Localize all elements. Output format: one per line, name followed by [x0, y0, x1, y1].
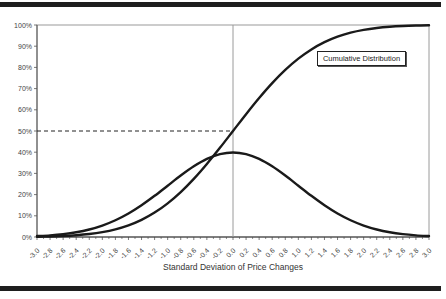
- y-tick-label: 70%: [18, 85, 32, 92]
- annotations: [37, 25, 233, 237]
- x-tick-label: 0.4: [251, 247, 263, 259]
- x-tick-label: -0.2: [210, 247, 224, 261]
- x-tick-label: 1.6: [329, 247, 341, 259]
- x-tick-label: 1.2: [303, 247, 315, 259]
- y-tick-label: 40%: [18, 149, 32, 156]
- x-tick-label: 0.6: [264, 247, 276, 259]
- bottom-rule: [0, 286, 441, 291]
- x-tick-label: -1.0: [158, 247, 172, 261]
- y-tick-label: 90%: [18, 43, 32, 50]
- x-tick-label: -1.2: [145, 247, 159, 261]
- x-tick-label: 0.2: [238, 247, 250, 259]
- x-tick-label: 2.6: [395, 247, 407, 259]
- x-tick-label: 0.8: [277, 247, 289, 259]
- y-tick-label: 50%: [18, 128, 32, 135]
- x-tick-label: 2.8: [408, 247, 420, 259]
- x-tick-label: -1.6: [119, 247, 133, 261]
- x-tick-label: -0.4: [197, 247, 211, 261]
- x-tick-label: 2.0: [356, 247, 368, 259]
- y-tick-label: 100%: [14, 22, 32, 29]
- x-tick-label: -2.0: [93, 247, 107, 261]
- y-tick-label: 30%: [18, 170, 32, 177]
- x-tick-label: -0.6: [184, 247, 198, 261]
- y-tick-label: 60%: [18, 106, 32, 113]
- normal-distribution-chart: 0%10%20%30%40%50%60%70%80%90%100% -3.0-2…: [0, 0, 446, 299]
- x-tick-label: 2.4: [382, 247, 394, 259]
- x-tick-label: -3.0: [27, 247, 41, 261]
- x-tick-label: 1.8: [342, 247, 354, 259]
- x-axis: -3.0-2.8-2.6-2.4-2.2-2.0-1.8-1.6-1.4-1.2…: [27, 237, 433, 260]
- x-tick-label: -2.8: [40, 247, 54, 261]
- x-tick-label: 1.4: [316, 247, 328, 259]
- y-tick-label: 10%: [18, 212, 32, 219]
- x-tick-label: -0.8: [171, 247, 185, 261]
- x-tick-label: 3.0: [421, 247, 433, 259]
- y-tick-label: 80%: [18, 64, 32, 71]
- x-tick-label: -1.8: [106, 247, 120, 261]
- y-axis: 0%10%20%30%40%50%60%70%80%90%100%: [14, 22, 37, 241]
- x-tick-label: -1.4: [132, 247, 146, 261]
- y-tick-label: 20%: [18, 191, 32, 198]
- y-tick-label: 0%: [22, 234, 32, 241]
- x-tick-label: 1.0: [290, 247, 302, 259]
- x-tick-label: 0.0: [225, 247, 237, 259]
- x-tick-label: -2.4: [66, 247, 80, 261]
- x-tick-label: 2.2: [369, 247, 381, 259]
- legend-cumulative-distribution: Cumulative Distribution: [317, 51, 406, 66]
- x-axis-title: Standard Deviation of Price Changes: [0, 262, 446, 272]
- x-tick-label: -2.6: [53, 247, 67, 261]
- x-tick-label: -2.2: [79, 247, 93, 261]
